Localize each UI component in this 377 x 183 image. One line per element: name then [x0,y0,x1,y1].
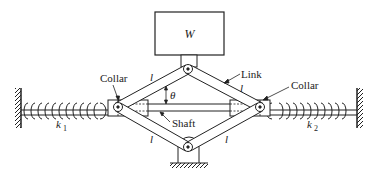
spring-k1-label: k 1 [56,118,67,133]
length-label-lower-right: l [225,133,228,145]
length-label-lower-left: l [150,133,153,145]
shaft-label: Shaft [172,117,195,129]
angle-label: θ [170,89,176,101]
spring-k2-symbol: k [307,118,313,130]
spring-k2-subscript: 2 [314,124,318,133]
shaft [148,104,230,111]
link-label: Link [241,68,262,80]
mechanism-diagram: W θ Collar [0,0,377,183]
spring-k2-label: k 2 [307,118,318,133]
weight-block: W [155,12,224,67]
spring-k1-subscript: 1 [63,124,67,133]
collar-right-leader [263,87,289,100]
left-wall [15,88,21,128]
spring-k1-symbol: k [56,118,62,130]
angle-theta [165,86,168,104]
link-leader [224,74,240,83]
link-lower-right [186,103,263,151]
length-label-upper-right: l [240,82,243,94]
collar-left-leader [113,85,120,101]
length-label-upper-left: l [150,71,153,83]
spring-k1 [21,103,108,119]
shaft-leader [160,112,170,122]
collar-left-label: Collar [100,72,128,84]
collar-right-label: Collar [291,79,319,91]
spring-k2 [266,103,357,119]
right-wall [357,88,363,128]
weight-label: W [185,27,196,41]
